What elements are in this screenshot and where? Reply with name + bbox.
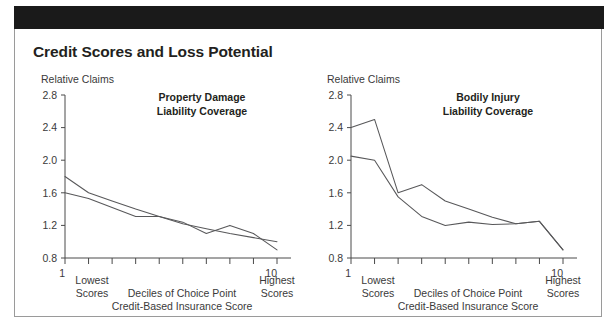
x-axis-center-line2-left: Credit-Based Insurance Score bbox=[107, 300, 257, 313]
header-bar bbox=[14, 6, 604, 29]
x-axis-high-line3-right: Scores bbox=[535, 287, 591, 300]
y-tick-label: 2.8 bbox=[328, 89, 343, 101]
y-tick-label: 2.4 bbox=[328, 121, 343, 133]
data-series-line bbox=[351, 156, 563, 250]
y-tick-label: 1.2 bbox=[328, 219, 343, 231]
chart-panel-bodily-injury: Relative Claims Bodily Injury Liability … bbox=[307, 73, 595, 311]
y-tick-label: 2.0 bbox=[42, 154, 57, 166]
x-axis-high-line2-right: Highest bbox=[535, 274, 591, 287]
x-axis-high-caption-left: Highest Scores bbox=[249, 274, 305, 300]
x-axis-center-caption-right: Deciles of Choice Point Credit-Based Ins… bbox=[393, 287, 543, 313]
x-axis-high-line3-left: Scores bbox=[249, 287, 305, 300]
y-tick-label: 2.0 bbox=[328, 154, 343, 166]
x-axis-low-line2-right: Lowest bbox=[351, 274, 405, 287]
y-tick-label: 2.4 bbox=[42, 121, 57, 133]
x-axis-center-line2-right: Credit-Based Insurance Score bbox=[393, 300, 543, 313]
data-series-line bbox=[65, 193, 277, 250]
x-axis-high-caption-right: Highest Scores bbox=[535, 274, 591, 300]
data-series-line bbox=[351, 119, 563, 249]
figure-container: Credit Scores and Loss Potential Relativ… bbox=[0, 0, 611, 336]
y-tick-label: 1.6 bbox=[42, 187, 57, 199]
x-axis-center-caption-left: Deciles of Choice Point Credit-Based Ins… bbox=[107, 287, 257, 313]
y-tick-label: 1.6 bbox=[328, 187, 343, 199]
y-tick-label: 1.2 bbox=[42, 219, 57, 231]
y-tick-label: 2.8 bbox=[42, 89, 57, 101]
page-title: Credit Scores and Loss Potential bbox=[33, 43, 273, 61]
y-tick-label: 0.8 bbox=[328, 252, 343, 264]
data-series-line bbox=[65, 177, 277, 242]
y-tick-label: 0.8 bbox=[42, 252, 57, 264]
x-axis-high-line2-left: Highest bbox=[249, 274, 305, 287]
x-axis-low-line2-left: Lowest bbox=[65, 274, 119, 287]
x-axis-center-line1-left: Deciles of Choice Point bbox=[107, 287, 257, 300]
chart-panel-property-damage: Relative Claims Property Damage Liabilit… bbox=[21, 73, 309, 311]
x-axis-center-line1-right: Deciles of Choice Point bbox=[393, 287, 543, 300]
figure-card: Credit Scores and Loss Potential Relativ… bbox=[14, 29, 602, 317]
